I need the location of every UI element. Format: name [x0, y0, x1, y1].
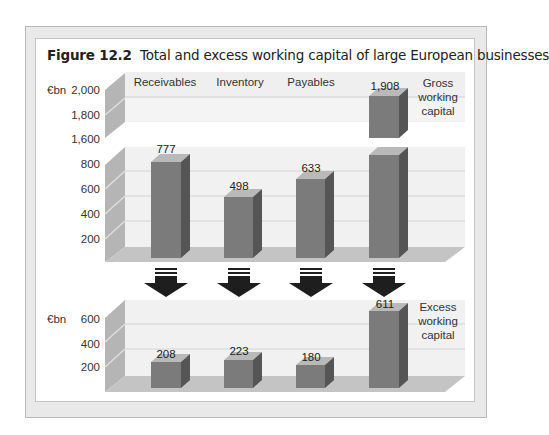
- y-tick-400: 400: [66, 208, 100, 220]
- top-unit-label: €bn: [47, 84, 66, 96]
- y-tick-2000: 2,000: [66, 84, 100, 96]
- y-tick-200-bottom: 200: [66, 361, 100, 373]
- value-excess-working-capital: 611: [365, 298, 405, 310]
- value-receivables-excess: 208: [146, 348, 186, 360]
- value-payables-excess: 180: [291, 351, 331, 363]
- value-receivables-total: 777: [146, 143, 186, 155]
- y-tick-600-bottom: 600: [66, 313, 100, 325]
- y-tick-1800: 1,800: [66, 109, 100, 121]
- excess-working-capital-label: Excess working capital: [410, 300, 466, 342]
- value-payables-total: 633: [291, 162, 331, 174]
- bottom-unit-label: €bn: [47, 313, 66, 325]
- y-tick-1600: 1,600: [66, 133, 100, 145]
- category-inventory: Inventory: [205, 76, 275, 88]
- category-receivables: Receivables: [130, 76, 200, 88]
- value-gross-working-capital: 1,908: [365, 80, 405, 92]
- value-inventory-excess: 223: [219, 345, 259, 357]
- y-tick-600: 600: [66, 183, 100, 195]
- y-tick-800: 800: [66, 158, 100, 170]
- category-payables: Payables: [276, 76, 346, 88]
- value-inventory-total: 498: [219, 180, 259, 192]
- gross-working-capital-label: Gross working capital: [410, 76, 466, 118]
- y-tick-400-bottom: 400: [66, 338, 100, 350]
- y-tick-200: 200: [66, 233, 100, 245]
